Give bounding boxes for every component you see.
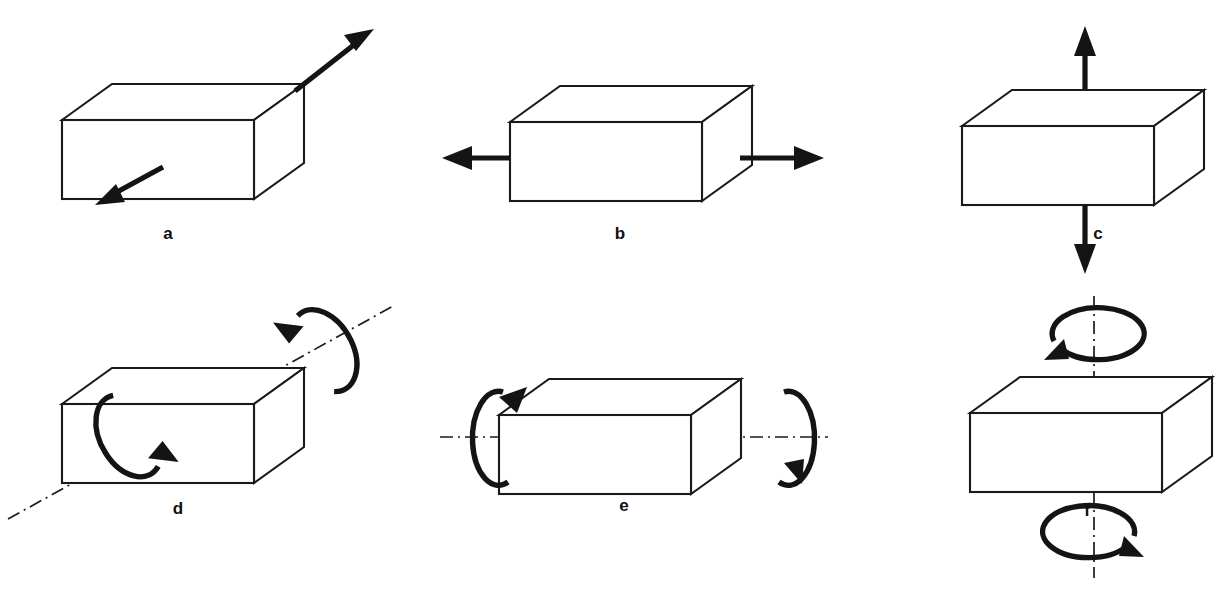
panel-label-c: c bbox=[1093, 224, 1102, 243]
panel-label-e: e bbox=[619, 496, 628, 515]
panel-label-f: f bbox=[1084, 501, 1090, 520]
block-e bbox=[499, 379, 741, 494]
panel-label-d: d bbox=[173, 499, 183, 518]
panel-label-b: b bbox=[615, 224, 625, 243]
diagram-canvas: a b c bbox=[0, 0, 1227, 589]
block-f bbox=[970, 377, 1212, 492]
block-a bbox=[62, 84, 304, 199]
panel-label-a: a bbox=[163, 224, 173, 243]
block-b bbox=[510, 86, 752, 201]
figure-root: a b c bbox=[0, 0, 1227, 589]
block-c bbox=[962, 90, 1204, 205]
